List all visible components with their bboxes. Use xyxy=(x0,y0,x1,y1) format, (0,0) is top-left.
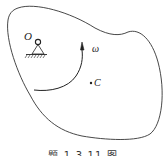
center-of-mass-label: C xyxy=(94,77,101,88)
figure-caption: 题 1-3-11 图 xyxy=(0,147,166,156)
rigid-body-diagram xyxy=(0,0,166,156)
pivot-label: O xyxy=(24,30,32,42)
center-of-mass-dot xyxy=(90,82,92,84)
pivot-support-icon xyxy=(25,39,47,58)
body-outline xyxy=(8,6,163,139)
angular-velocity-label: ω xyxy=(92,43,99,54)
rotation-arrow-icon xyxy=(34,42,84,90)
